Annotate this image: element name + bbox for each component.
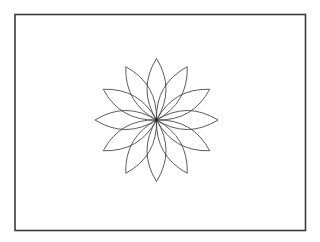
flower-drawing bbox=[0, 0, 320, 242]
drawing-canvas bbox=[0, 0, 320, 242]
flower-center-dot bbox=[155, 119, 158, 122]
